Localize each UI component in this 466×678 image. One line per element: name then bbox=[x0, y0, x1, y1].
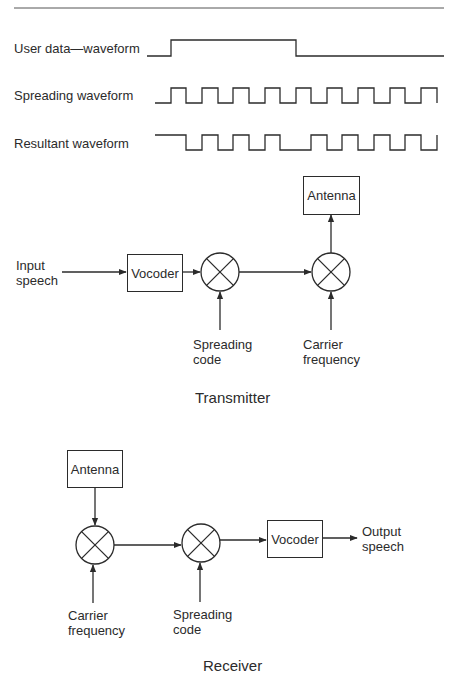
transmitter-caption: Transmitter bbox=[195, 389, 270, 406]
user-data-waveform-label: User data—waveform bbox=[14, 41, 140, 56]
rx-antenna-block: Antenna bbox=[67, 450, 123, 488]
tx-antenna-block: Antenna bbox=[303, 176, 360, 215]
tx-carrier-frequency-label: Carrier frequency bbox=[303, 337, 360, 367]
tx-spreading-mixer-icon bbox=[201, 253, 239, 291]
rx-carrier-frequency-label: Carrier frequency bbox=[68, 608, 125, 638]
spreading-waveform-label: Spreading waveform bbox=[14, 88, 133, 103]
tx-carrier-mixer-icon bbox=[312, 253, 350, 291]
spreading-waveform bbox=[155, 88, 437, 103]
receiver-caption: Receiver bbox=[203, 657, 262, 674]
rx-output-speech-label: Output speech bbox=[362, 524, 404, 554]
resultant-waveform-label: Resultant waveform bbox=[14, 136, 129, 151]
resultant-waveform bbox=[155, 135, 437, 150]
tx-input-speech-label: Input speech bbox=[16, 258, 58, 288]
rx-spreading-mixer-icon bbox=[182, 524, 220, 562]
rx-spreading-code-label: Spreading code bbox=[173, 607, 232, 637]
rx-carrier-mixer-icon bbox=[76, 526, 114, 564]
rx-vocoder-block: Vocoder bbox=[267, 520, 323, 558]
tx-vocoder-block: Vocoder bbox=[127, 254, 183, 292]
tx-spreading-code-label: Spreading code bbox=[193, 337, 252, 367]
user-data-waveform bbox=[147, 40, 444, 56]
